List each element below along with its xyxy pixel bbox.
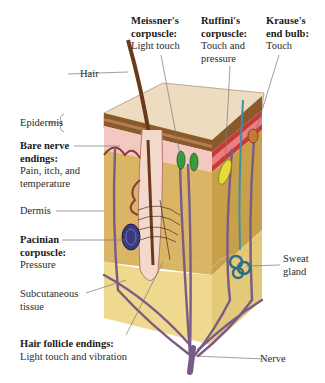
label-epidermis: Epidermis [20,117,63,130]
skin-cross-section-illustration [0,0,325,383]
label-bare-nerve-endings: Bare nerve endings: Pain, itch, and temp… [20,140,80,190]
meissner-corpuscle-2 [190,153,198,171]
label-sweat-gland: Sweat gland [283,253,309,278]
label-subcutaneous-tissue: Subcutaneous tissue [20,288,78,313]
meissner-corpuscle-1 [177,151,185,169]
pacinian-corpuscle [122,224,140,250]
label-pacinian-corpuscle: Pacinian corpuscle: Pressure [20,234,66,272]
subcutaneous-front [104,262,212,345]
krause-end-bulb [248,129,258,143]
label-hair-follicle-endings: Hair follicle endings: Light touch and v… [20,338,127,363]
label-krause-end-bulb: Krause's end bulb: Touch [266,15,309,53]
label-ruffini-corpuscle: Ruffini's corpuscle: Touch and pressure [201,15,247,65]
label-dermis: Dermis [20,205,51,218]
main-nerve [190,348,193,372]
label-hair: Hair [80,68,99,81]
label-nerve: Nerve [260,353,286,366]
label-meissner-corpuscle: Meissner's corpuscle: Light touch [131,15,180,53]
